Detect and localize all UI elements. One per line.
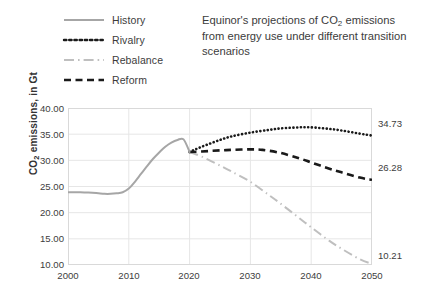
y-tick-label: 20.00 bbox=[24, 207, 64, 218]
legend-item-rebalance: Rebalance bbox=[62, 50, 212, 70]
plot-svg bbox=[68, 108, 372, 265]
end-label-reform: 26.28 bbox=[378, 162, 402, 173]
y-tick-label: 40.00 bbox=[24, 103, 64, 114]
x-tick-label: 2050 bbox=[347, 270, 397, 281]
legend-line-dotted-icon bbox=[62, 34, 106, 46]
legend-label-rebalance: Rebalance bbox=[112, 54, 163, 66]
y-tick-label: 35.00 bbox=[24, 129, 64, 140]
end-label-rivalry: 34.73 bbox=[378, 118, 402, 129]
legend-label-history: History bbox=[112, 14, 145, 26]
chart-title-subscript: 2 bbox=[338, 19, 342, 28]
legend-label-rivalry: Rivalry bbox=[112, 34, 145, 46]
legend-item-history: History bbox=[62, 10, 212, 30]
chart-title: Equinor's projections of CO2 emissions f… bbox=[202, 13, 417, 60]
y-tick-label: 15.00 bbox=[24, 233, 64, 244]
y-tick-label: 25.00 bbox=[24, 181, 64, 192]
series-line-rivalry bbox=[190, 127, 372, 152]
series-lines bbox=[68, 127, 372, 264]
series-line-reform bbox=[190, 149, 372, 179]
chart-title-part1: Equinor's projections of CO bbox=[202, 14, 338, 26]
x-tick-label: 2010 bbox=[104, 270, 154, 281]
gridlines bbox=[68, 108, 372, 265]
plot-area bbox=[68, 108, 372, 265]
y-tick-label: 30.00 bbox=[24, 155, 64, 166]
legend-item-reform: Reform bbox=[62, 70, 212, 90]
x-axis-tick-labels: 2000 2010 2020 2030 2040 2050 bbox=[0, 270, 428, 284]
legend-line-dashed-icon bbox=[62, 74, 106, 86]
x-tick-label: 2020 bbox=[164, 270, 214, 281]
legend-line-solid-icon bbox=[62, 14, 106, 26]
y-axis-tick-labels: 40.00 35.00 30.00 25.00 20.00 15.00 10.0… bbox=[20, 0, 64, 306]
x-tick-label: 2040 bbox=[286, 270, 336, 281]
y-tick-label: 10.00 bbox=[24, 259, 64, 270]
legend-item-rivalry: Rivalry bbox=[62, 30, 212, 50]
chart-legend: History Rivalry Rebalance bbox=[62, 10, 212, 90]
legend-line-dashdot-icon bbox=[62, 54, 106, 66]
x-tick-label: 2000 bbox=[43, 270, 93, 281]
series-line-rebalance bbox=[190, 152, 372, 264]
x-tick-label: 2030 bbox=[225, 270, 275, 281]
chart-container: History Rivalry Rebalance bbox=[0, 0, 428, 306]
legend-label-reform: Reform bbox=[112, 74, 147, 86]
end-label-rebalance: 10.21 bbox=[378, 250, 402, 261]
